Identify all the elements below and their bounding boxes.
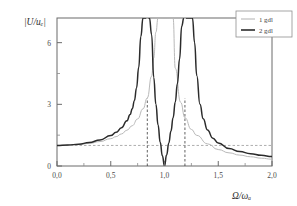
chart-figure: 0,00,51,01,52,0036 |U/uₑ| Ω/ωₐ 1 gdl2 gd… xyxy=(0,0,297,206)
x-tick-label: 0,0 xyxy=(52,171,62,180)
x-tick-label: 1,5 xyxy=(214,171,224,180)
y-axis-title: |U/uₑ| xyxy=(24,17,46,27)
x-tick-label: 0,5 xyxy=(106,171,116,180)
legend-label-1-gdl: 1 gdl xyxy=(259,16,273,23)
frequency-response-plot: 0,00,51,01,52,0036 |U/uₑ| Ω/ωₐ 1 gdl2 gd… xyxy=(0,0,297,206)
y-axis-title-text: |U/uₑ| xyxy=(24,17,46,27)
legend-label-2-gdl: 2 gdl xyxy=(259,27,273,34)
x-tick-label: 2,0 xyxy=(267,171,277,180)
y-tick-label: 0 xyxy=(47,162,51,171)
x-axis-title-text: Ω/ωₐ xyxy=(232,191,251,201)
x-axis-title: Ω/ωₐ xyxy=(232,191,251,201)
y-tick-label: 6 xyxy=(47,39,51,48)
x-tick-label: 1,0 xyxy=(160,171,170,180)
y-tick-label: 3 xyxy=(47,100,51,109)
legend: 1 gdl2 gdl xyxy=(236,11,292,37)
